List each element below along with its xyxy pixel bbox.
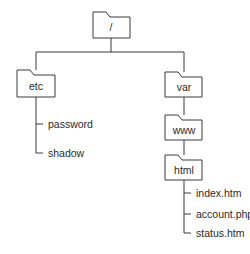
file-password[interactable]: password (48, 118, 93, 130)
file-index-htm[interactable]: index.htm (196, 187, 242, 199)
etc-stem-line (36, 97, 43, 153)
folder-www[interactable]: www (165, 115, 202, 140)
folder-www-label: www (172, 124, 196, 136)
folder-etc[interactable]: etc (17, 70, 55, 97)
file-account-php[interactable]: account.php (196, 208, 250, 220)
directory-tree-diagram: / etc var www html password shadow index… (0, 0, 250, 254)
root-branch-line (36, 52, 184, 72)
file-shadow[interactable]: shadow (48, 147, 85, 159)
folder-html[interactable]: html (165, 155, 202, 180)
folder-root[interactable]: / (93, 12, 130, 38)
folder-root-label: / (110, 21, 113, 33)
html-stem-line (184, 180, 191, 233)
folder-html-label: html (174, 164, 194, 176)
folder-etc-label: etc (29, 80, 43, 92)
folder-var[interactable]: var (165, 72, 202, 97)
folder-var-label: var (177, 81, 192, 93)
file-status-htm[interactable]: status.htm (196, 227, 245, 239)
